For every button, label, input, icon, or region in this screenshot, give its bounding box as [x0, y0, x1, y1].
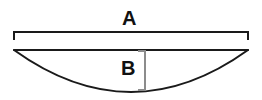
- height-dimension-bracket: [139, 51, 145, 90]
- width-dimension-label: A: [122, 8, 136, 28]
- width-dimension-bracket-path: [14, 32, 248, 39]
- height-dimension-bracket-path: [139, 51, 145, 90]
- width-dimension-bracket: [14, 32, 248, 39]
- height-dimension-label: B: [121, 58, 135, 78]
- segment-dimension-diagram: A B: [0, 0, 262, 100]
